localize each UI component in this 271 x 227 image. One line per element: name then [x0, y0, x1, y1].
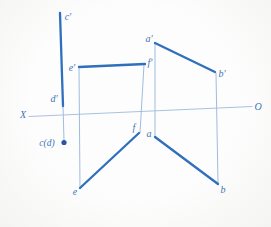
projector-e-prime-to-e — [79, 67, 80, 188]
segment-a-b — [155, 137, 218, 184]
segment-e-prime-f-prime — [79, 64, 145, 67]
label-axis-o: O — [254, 101, 261, 112]
point-c-d-dot — [61, 140, 66, 145]
label-axis-x: X — [19, 109, 27, 120]
label-a: a — [147, 128, 152, 139]
segment-e-f — [80, 133, 139, 188]
label-f: f — [133, 122, 137, 133]
label-a-prime: a′ — [145, 33, 153, 44]
label-e: e — [73, 186, 78, 197]
label-c-prime: c′ — [65, 11, 72, 22]
projector-b-prime-to-b — [216, 73, 218, 183]
segment-c-prime-d-prime — [60, 13, 63, 106]
diagram-page: XOc′d′c(d)e′f′a′b′efab — [0, 0, 271, 227]
projection-diagram: XOc′d′c(d)e′f′a′b′efab — [0, 0, 271, 227]
x-o-axis — [29, 107, 252, 117]
label-f-prime: f′ — [148, 57, 154, 68]
label-c-d: c(d) — [39, 138, 54, 149]
label-e-prime: e′ — [69, 62, 76, 73]
label-d-prime: d′ — [50, 93, 58, 104]
segment-a-prime-b-prime — [155, 43, 215, 72]
projector-f-prime-to-f — [140, 65, 144, 133]
projector-d-prime-to-c-d — [63, 106, 64, 140]
label-b: b — [221, 184, 226, 195]
label-b-prime: b′ — [218, 68, 226, 79]
